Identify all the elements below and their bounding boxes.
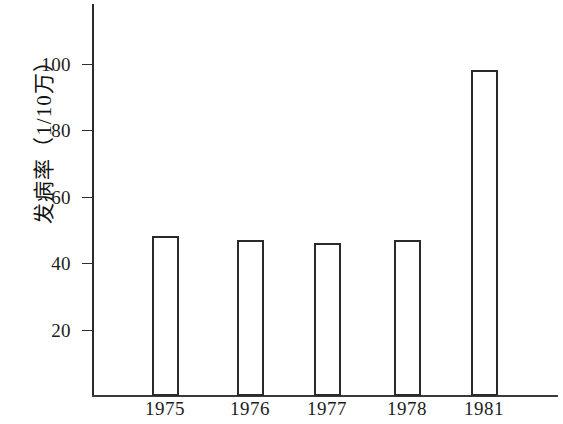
x-axis-label: 1977 — [287, 399, 367, 420]
y-axis-tick-label: 20 — [27, 320, 71, 339]
y-axis-tick-mark — [82, 130, 93, 131]
bar — [237, 240, 264, 396]
y-axis-tick-mark — [82, 64, 93, 65]
y-axis-tick-label: 80 — [27, 121, 71, 140]
y-axis-tick-label: 40 — [27, 254, 71, 273]
bar-chart-figure: 发病率（1/10万） 20406080100 19751976197719781… — [0, 0, 563, 424]
bar — [471, 70, 498, 396]
bar — [152, 236, 179, 396]
y-axis-tick-mark — [82, 197, 93, 198]
x-axis-label: 1978 — [367, 399, 447, 420]
x-axis-label: 1981 — [444, 399, 524, 420]
y-axis-tick-label: 100 — [27, 54, 71, 73]
x-axis-label: 1975 — [125, 399, 205, 420]
y-axis-tick-label: 60 — [27, 187, 71, 206]
bar — [314, 243, 341, 396]
y-axis-tick-mark — [82, 330, 93, 331]
bar — [394, 240, 421, 396]
x-axis-label: 1976 — [210, 399, 290, 420]
y-axis-tick-mark — [82, 263, 93, 264]
